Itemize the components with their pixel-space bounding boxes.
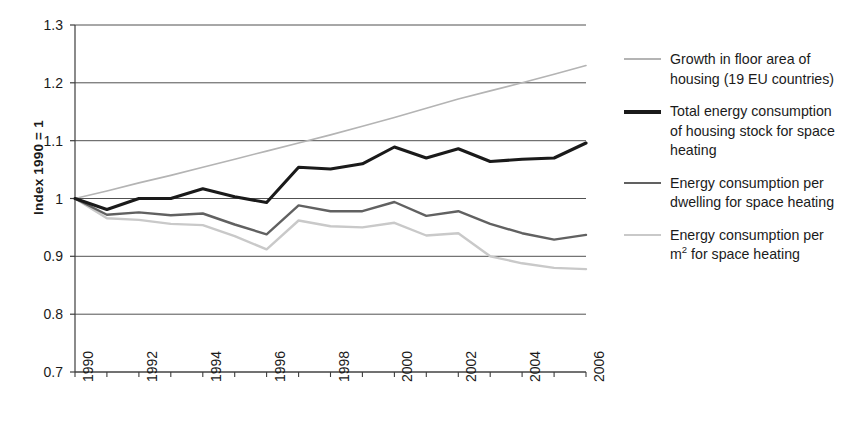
series-line (75, 199, 586, 270)
x-axis-tick-label: 2000 (400, 351, 414, 382)
y-axis-tick-label: 1.1 (23, 134, 63, 148)
x-axis-tick-label: 1998 (337, 351, 351, 382)
legend-color-swatch (624, 234, 661, 237)
legend-entry: Energy consumption perdwelling for space… (624, 174, 852, 213)
legend-label: Energy consumption perm2 for space heati… (670, 226, 852, 265)
x-axis-tick-label: 1990 (81, 351, 95, 382)
legend-color-swatch (624, 110, 661, 114)
legend-entry: Growth in floor area ofhousing (19 EU co… (624, 50, 852, 89)
figure-container: Index 1990 = 1 1.31.21.110.90.80.7 19901… (0, 0, 855, 447)
y-axis-tick-label: 0.7 (23, 365, 63, 379)
x-axis-tick-label: 1996 (273, 351, 287, 382)
x-axis-tick-label: 1994 (209, 351, 223, 382)
legend-label: Growth in floor area ofhousing (19 EU co… (670, 50, 852, 89)
x-axis-tick-label: 2002 (464, 351, 478, 382)
legend-entry: Total energy consumptionof housing stock… (624, 102, 852, 161)
x-axis-tick-label: 2004 (528, 351, 542, 382)
legend-color-swatch (624, 58, 661, 60)
series-line (75, 66, 586, 199)
legend-label: Total energy consumptionof housing stock… (670, 102, 852, 161)
y-axis-tick-label: 1 (23, 192, 63, 206)
legend-color-swatch (624, 182, 661, 185)
legend-entry: Energy consumption perm2 for space heati… (624, 226, 852, 265)
series-line (75, 143, 586, 210)
legend-label: Energy consumption perdwelling for space… (670, 174, 852, 213)
y-axis-tick-label: 1.3 (23, 18, 63, 32)
y-axis-tick-label: 0.8 (23, 307, 63, 321)
y-axis-tick-label: 0.9 (23, 249, 63, 263)
chart-legend: Growth in floor area ofhousing (19 EU co… (624, 50, 852, 278)
x-axis-tick-label: 2006 (592, 351, 606, 382)
series-line (75, 199, 586, 240)
figure-caption (46, 432, 846, 447)
y-axis-tick-label: 1.2 (23, 76, 63, 90)
x-axis-tick-label: 1992 (145, 351, 159, 382)
